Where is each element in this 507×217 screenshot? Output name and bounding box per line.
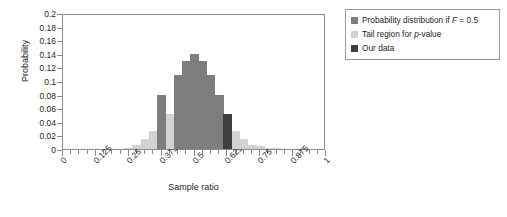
y-tick-mark	[57, 136, 62, 137]
y-tick-label: 0.04	[39, 119, 56, 128]
bar	[157, 95, 166, 149]
legend-item: Tail region for p-value	[351, 29, 494, 40]
legend-swatch-icon	[351, 45, 358, 52]
y-tick-mark	[57, 14, 62, 15]
y-tick-label: 0.14	[39, 51, 56, 60]
bar	[272, 148, 281, 149]
x-tick-label: 0.25	[125, 147, 143, 165]
y-tick-mark	[57, 68, 62, 69]
y-tick-label: 0.12	[39, 64, 56, 73]
y-tick-label: 0.18	[39, 23, 56, 32]
y-tick-mark	[57, 109, 62, 110]
x-axis-title: Sample ratio	[62, 182, 325, 192]
x-tick-label: 0.5	[191, 151, 206, 166]
y-tick-mark	[57, 123, 62, 124]
y-tick-label: 0.2	[44, 10, 56, 19]
y-tick-mark	[57, 150, 62, 151]
y-tick-mark	[57, 28, 62, 29]
x-tick-label: 0.75	[256, 147, 274, 165]
bar	[223, 114, 232, 149]
y-tick-label: 0.16	[39, 37, 56, 46]
legend-label: Probability distribution if F = 0.5	[362, 16, 478, 25]
legend-item: Our data	[351, 43, 494, 54]
legend-label: Tail region for p-value	[362, 30, 441, 39]
legend-swatch-icon	[351, 17, 358, 24]
bar-group	[63, 15, 324, 149]
y-tick-label: 0.02	[39, 132, 56, 141]
y-tick-mark	[57, 41, 62, 42]
legend-label: Our data	[362, 44, 394, 53]
legend-swatch-icon	[351, 31, 358, 38]
y-tick-label: 0.1	[44, 78, 56, 87]
y-tick-mark	[57, 96, 62, 97]
chart-legend: Probability distribution if F = 0.5Tail …	[345, 9, 500, 60]
y-tick-label: 0.08	[39, 91, 56, 100]
probability-distribution-chart: Probability 0.20.180.160.140.120.10.080.…	[0, 0, 507, 217]
legend-item: Probability distribution if F = 0.5	[351, 15, 494, 26]
plot-area	[62, 14, 325, 150]
y-tick-mark	[57, 82, 62, 83]
x-tick-label: 0	[59, 156, 69, 166]
x-tick-label: 1	[322, 156, 332, 166]
y-tick-mark	[57, 55, 62, 56]
y-tick-label: 0.06	[39, 105, 56, 114]
